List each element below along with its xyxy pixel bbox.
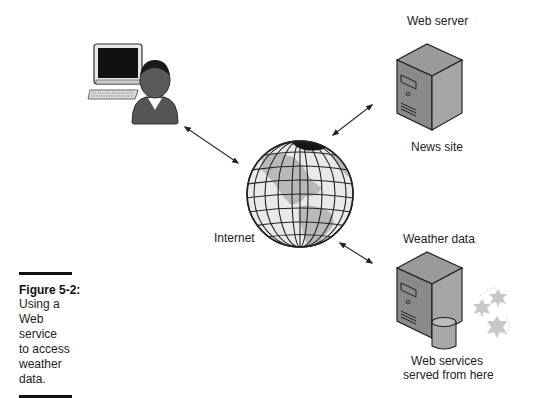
arrow-internet-webserver xyxy=(333,105,372,135)
server-database-icon xyxy=(397,252,462,349)
caption-line: Web service xyxy=(19,312,83,342)
web-services-line-1: Web services xyxy=(403,354,491,368)
caption-top-rule xyxy=(19,272,72,275)
web-server-label: Web server xyxy=(407,14,468,28)
caption-line: data. xyxy=(19,372,83,387)
figure-number: Figure 5-2: xyxy=(19,283,83,297)
web-services-line-2: served from here xyxy=(403,368,491,382)
caption-line: Using a xyxy=(19,297,83,312)
weather-data-label: Weather data xyxy=(403,232,475,246)
globe-icon xyxy=(247,140,353,250)
caption-line: weather xyxy=(19,357,83,372)
arrow-user-internet xyxy=(185,127,238,163)
caption-line: to access xyxy=(19,342,83,357)
figure-caption: Figure 5-2: Using a Web service to acces… xyxy=(19,272,83,398)
internet-label: Internet xyxy=(214,231,255,245)
web-services-label: Web services served from here xyxy=(403,354,491,382)
arrow-internet-weather xyxy=(340,243,372,263)
server-icon xyxy=(397,44,462,130)
user-computer-icon xyxy=(88,44,178,124)
news-site-label: News site xyxy=(411,140,463,154)
caption-text: Using a Web service to access weather da… xyxy=(19,297,83,387)
gears-icon xyxy=(473,288,509,338)
